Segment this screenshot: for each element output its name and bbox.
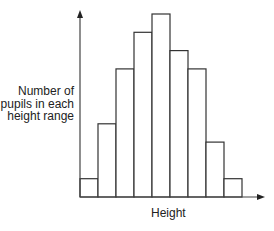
histogram-bar <box>116 69 134 197</box>
histogram-bar <box>134 32 152 197</box>
histogram-bar <box>188 69 206 197</box>
x-axis-arrow-icon <box>257 194 265 200</box>
histogram-bar <box>170 51 188 197</box>
y-axis-label: Number of pupils in each height range <box>0 85 74 123</box>
histogram-bar <box>206 142 224 197</box>
y-axis-label-line-1: Number of <box>0 85 74 98</box>
y-axis-label-line-3: height range <box>0 110 74 123</box>
y-axis-arrow-icon <box>77 10 83 18</box>
histogram-bar <box>152 14 170 197</box>
bars-group <box>80 14 242 197</box>
histogram-bar <box>98 124 116 197</box>
x-axis-label: Height <box>151 206 186 220</box>
histogram-bar <box>224 179 242 197</box>
histogram-bar <box>80 179 98 197</box>
